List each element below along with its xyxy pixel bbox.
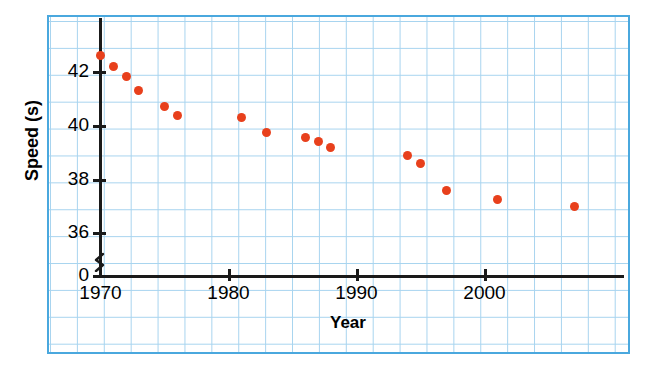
- chart-title: [0, 0, 645, 4]
- chart-page: Speed (s) Year 036384042 197019801990200…: [0, 0, 645, 369]
- y-axis-title: Speed (s): [22, 71, 43, 211]
- graph-paper-background: [47, 15, 630, 354]
